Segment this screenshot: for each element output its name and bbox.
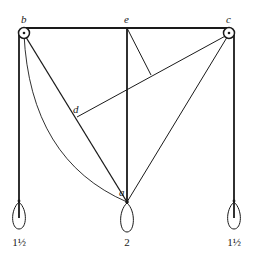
label-b: b: [21, 13, 27, 25]
line-ca: [127, 34, 229, 202]
weight-label-right: 1½: [227, 236, 241, 248]
label-d: d: [73, 103, 79, 115]
knot-right: [233, 200, 236, 203]
weight-label-left: 1½: [12, 236, 26, 248]
weight-loop-center: [121, 203, 134, 232]
knot-a: [125, 200, 129, 204]
label-e: e: [124, 13, 129, 25]
line-dc: [77, 34, 229, 117]
label-a: a: [119, 186, 125, 198]
weight-label-center: 2: [124, 236, 130, 248]
pulley-b: [19, 28, 30, 39]
line-e-perp: [127, 28, 151, 75]
label-c: c: [226, 13, 231, 25]
knot-left: [18, 200, 21, 203]
pulley-diagram: b e c d a 1½ 2 1½: [0, 0, 254, 255]
line-ba: [24, 34, 127, 202]
pulley-c: [224, 28, 235, 39]
